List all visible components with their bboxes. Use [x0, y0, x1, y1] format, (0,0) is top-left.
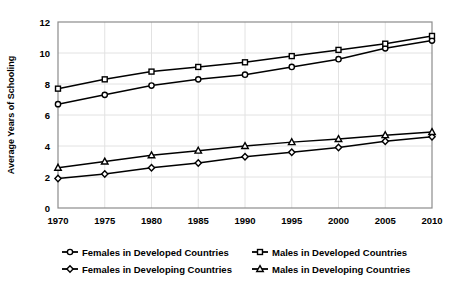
y-tick-label: 6	[45, 110, 50, 121]
y-tick-label: 10	[39, 48, 50, 59]
data-point-marker	[56, 86, 61, 91]
x-tick-label: 1970	[47, 215, 68, 226]
legend-label: Females in Developed Countries	[82, 247, 229, 258]
x-axis-tick-labels: 197019751980198519901995200020052010	[47, 215, 442, 226]
legend-item-triangle[interactable]: Males in Developing Countries	[252, 264, 410, 275]
legend-marker-icon	[67, 249, 72, 254]
x-tick-label: 1980	[141, 215, 162, 226]
data-point-marker	[196, 77, 201, 82]
schooling-line-chart: 024681012 197019751980198519901995200020…	[0, 0, 475, 283]
x-tick-label: 1985	[188, 215, 210, 226]
data-point-marker	[289, 54, 294, 59]
data-point-marker	[336, 57, 341, 62]
y-axis-title: Average Years of Schooling	[6, 56, 16, 175]
y-tick-label: 2	[45, 172, 50, 183]
legend-label: Females in Developing Countries	[82, 264, 232, 275]
data-point-marker	[430, 33, 435, 38]
legend-label: Males in Developing Countries	[272, 264, 410, 275]
x-tick-label: 1990	[234, 215, 255, 226]
y-tick-label: 12	[39, 17, 50, 28]
x-tick-label: 2000	[328, 215, 349, 226]
data-point-marker	[383, 41, 388, 46]
data-point-marker	[243, 60, 248, 65]
data-point-marker	[149, 69, 154, 74]
chart-container: 024681012 197019751980198519901995200020…	[0, 0, 475, 283]
data-point-marker	[289, 64, 294, 69]
data-point-marker	[242, 72, 247, 77]
legend-marker-icon	[258, 250, 263, 255]
legend-item-square[interactable]: Males in Developed Countries	[252, 247, 407, 258]
data-point-marker	[102, 92, 107, 97]
x-tick-label: 1975	[94, 215, 116, 226]
legend-item-circle[interactable]: Females in Developed Countries	[62, 247, 229, 258]
data-point-marker	[102, 77, 107, 82]
legend-label: Males in Developed Countries	[272, 247, 407, 258]
chart-background	[0, 0, 475, 283]
data-point-marker	[149, 83, 154, 88]
data-point-marker	[336, 47, 341, 52]
y-tick-label: 8	[45, 79, 50, 90]
x-tick-label: 2005	[375, 215, 397, 226]
data-point-marker	[196, 64, 201, 69]
data-point-marker	[55, 102, 60, 107]
x-tick-label: 2010	[421, 215, 442, 226]
legend-item-diamond[interactable]: Females in Developing Countries	[62, 264, 232, 275]
y-tick-label: 4	[45, 141, 51, 152]
x-tick-label: 1995	[281, 215, 303, 226]
y-tick-label: 0	[45, 203, 50, 214]
